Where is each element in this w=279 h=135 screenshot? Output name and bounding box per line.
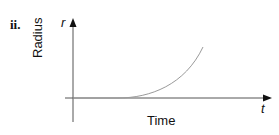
radius-curve	[73, 47, 203, 98]
plot-area	[0, 0, 279, 135]
x-axis-arrow-icon	[263, 95, 272, 102]
y-axis-arrow-icon	[70, 18, 77, 27]
